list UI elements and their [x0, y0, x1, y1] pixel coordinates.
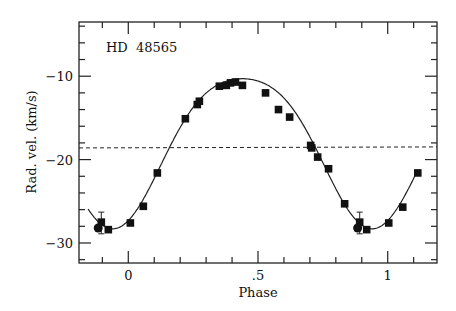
data-point-square [314, 153, 322, 161]
data-point-square [127, 219, 135, 227]
x-tick-label: 1 [384, 268, 392, 283]
y-tick-label: −30 [46, 236, 73, 251]
data-point-square [182, 115, 190, 123]
data-point-square [325, 165, 333, 173]
data-point-circle [94, 223, 103, 232]
data-point-square [216, 82, 224, 90]
data-point-square [286, 113, 294, 121]
x-tick-label: 0 [124, 268, 132, 283]
data-point-square [363, 226, 371, 234]
y-tick-label: −20 [46, 153, 73, 168]
data-point-square [275, 106, 283, 114]
x-axis-label: Phase [238, 285, 278, 300]
data-point-square [239, 82, 247, 90]
fit-curve [88, 79, 417, 229]
y-axis-label: Rad. vel. (km/s) [24, 90, 39, 193]
data-point-square [105, 226, 113, 234]
data-point-square [154, 169, 162, 177]
data-point-square [196, 97, 204, 105]
star-label: HD 48565 [106, 40, 177, 55]
data-point-square [399, 203, 407, 211]
radial-velocity-chart: HD 48565 Phase Rad. vel. (km/s) 0.51 −10… [0, 0, 456, 311]
data-point-square [385, 219, 393, 227]
data-point-square [414, 169, 422, 177]
y-tick-label: −10 [46, 69, 73, 84]
plot-area [79, 22, 437, 263]
plot-frame [79, 22, 437, 263]
data-point-square [140, 202, 148, 210]
x-tick-label: .5 [252, 268, 264, 283]
data-point-square [308, 144, 316, 152]
y-tick-labels: −10−20−30 [46, 69, 73, 251]
data-point-circle [353, 223, 362, 232]
systemic-velocity-line [79, 147, 437, 148]
data-point-square [232, 78, 240, 86]
x-tick-labels: 0.51 [124, 268, 392, 283]
data-point-square [341, 200, 349, 208]
data-point-square [262, 89, 270, 97]
